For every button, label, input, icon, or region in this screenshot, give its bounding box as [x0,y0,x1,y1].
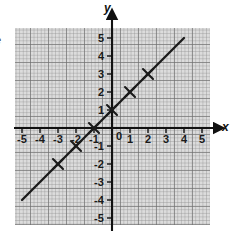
y-tick-label-3: 3 [96,69,106,80]
y-tick-label-4: 4 [96,51,106,62]
graph-figure: e [0,0,234,231]
y-tick-label--2: -2 [92,159,106,170]
x-tick-label--5: -5 [16,134,28,145]
x-tick-label-0: 0 [114,131,124,142]
plot-canvas [0,0,234,231]
y-axis-name-label: y [104,2,111,14]
x-tick-label-2: 2 [143,134,153,145]
x-tick-label--2: -2 [70,134,82,145]
x-tick-label-3: 3 [161,134,171,145]
x-tick-label-1: 1 [125,134,135,145]
y-tick-label-2: 2 [96,87,106,98]
y-tick-label--5: -5 [92,213,106,224]
y-tick-label--3: -3 [92,177,106,188]
x-tick-label--3: -3 [52,134,64,145]
y-tick-label--4: -4 [92,195,106,206]
x-tick-label-5: 5 [197,134,207,145]
data-point-marker [53,159,63,169]
y-tick-label-5: 5 [96,33,106,44]
data-point-marker [143,69,153,79]
x-axis-name-label: x [222,121,229,133]
data-point-marker [125,87,135,97]
y-tick-label--1: -1 [92,141,106,152]
x-tick-label-4: 4 [179,134,189,145]
x-tick-label--4: -4 [34,134,46,145]
y-tick-label-1: 1 [96,105,106,116]
